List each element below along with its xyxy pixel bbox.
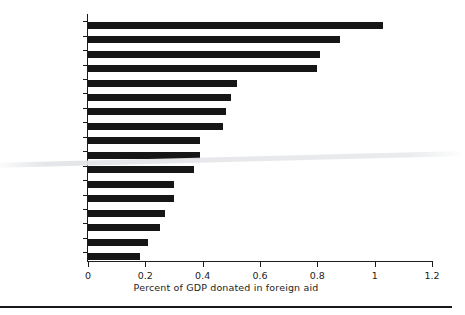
bar [88,80,237,87]
x-tick-label: 0.8 [310,270,325,281]
bar-row: New Zealand [88,206,432,220]
bar-row: Netherlands [88,47,432,61]
x-tick-label: 0.2 [138,270,153,281]
bar-row: Sweden [88,18,432,32]
bar-row: Norway [88,32,432,46]
bar [88,181,174,188]
bar [88,224,160,231]
bar [88,123,223,130]
x-tick-mark [203,261,204,267]
bar-row: Switzerland [88,134,432,148]
x-tick-label: 0 [85,270,91,281]
bar [88,195,174,202]
bar [88,36,340,43]
plot-area: SwedenNorwayNetherlandsDenmarkUnited Kin… [88,14,432,261]
x-tick-mark [317,261,318,267]
bar [88,65,317,72]
bar [88,210,165,217]
bar-row: Japan [88,220,432,234]
x-tick-mark [432,261,433,267]
bar-row: Austria [88,105,432,119]
bar [88,51,320,58]
bar-row: United Kingdom [88,76,432,90]
x-tick-label: 0.4 [195,270,210,281]
bar-row: France [88,119,432,133]
page-bottom-rule [0,306,452,308]
bar-row: Denmark [88,61,432,75]
bar-row: Belgium [88,90,432,104]
bar-row: Finland [88,148,432,162]
bar [88,152,200,159]
x-tick-label: 1 [372,270,378,281]
bar-row: Germany [88,163,432,177]
x-tick-mark [88,261,89,267]
bar-row: Italy [88,235,432,249]
bar-row: Australia [88,191,432,205]
bar [88,22,383,29]
x-tick-label: 0.6 [252,270,267,281]
x-tick-label: 1.2 [424,270,439,281]
x-tick-mark [145,261,146,267]
bar [88,108,226,115]
bar [88,166,194,173]
x-axis-title: Percent of GDP donated in foreign aid [0,282,452,294]
bar [88,239,148,246]
x-tick-mark [260,261,261,267]
bar [88,253,140,260]
bar [88,94,231,101]
x-tick-mark [375,261,376,267]
bar-row: Canada [88,177,432,191]
bar [88,137,200,144]
